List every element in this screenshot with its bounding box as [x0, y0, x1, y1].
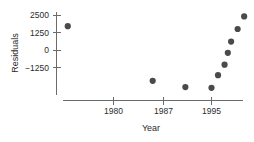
scatter-point [182, 84, 188, 90]
x-axis-title: Year [142, 123, 160, 133]
y-axis-group: 2500 1250 0 −1250 Residuals [10, 10, 61, 95]
scatter-point [221, 62, 227, 68]
y-tick-label-2500: 2500 [30, 10, 49, 20]
scatter-point [241, 13, 247, 19]
x-tick-label-1980: 1980 [104, 106, 123, 116]
residuals-vs-year-scatter-chart: 2500 1250 0 −1250 Residuals 1980 1987 19… [0, 0, 254, 142]
scatter-point [65, 23, 71, 29]
scatter-points-layer [65, 13, 248, 91]
x-tick-label-1995: 1995 [202, 106, 221, 116]
y-tick-label-0: 0 [44, 45, 49, 55]
scatter-point [150, 78, 156, 84]
x-tick-label-1987: 1987 [154, 106, 173, 116]
scatter-point [228, 39, 234, 45]
scatter-point [225, 50, 231, 56]
scatter-point [215, 72, 221, 78]
scatter-point [235, 26, 241, 32]
y-tick-label-minus-1250: −1250 [25, 63, 49, 73]
y-axis-title: Residuals [10, 33, 20, 73]
scatter-point [208, 85, 214, 91]
x-axis-group: 1980 1987 1995 Year [63, 97, 243, 134]
chart-canvas: 2500 1250 0 −1250 Residuals 1980 1987 19… [0, 0, 254, 142]
y-tick-label-1250: 1250 [30, 28, 49, 38]
